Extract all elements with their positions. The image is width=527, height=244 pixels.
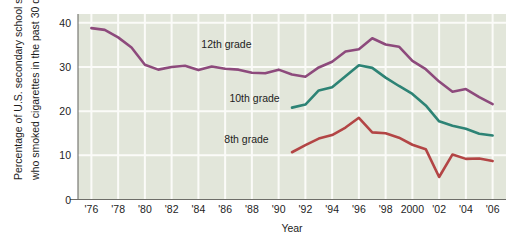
chart-page: 010203040 '76'78'80'82'84'86'88'90'92'94… [0,0,527,244]
y-axis-title-line2: who smoked cigarettes in the past 30 day… [29,0,41,181]
x-tick-label-1996: '96 [352,203,366,215]
x-tick-label-2006: '06 [486,203,500,215]
x-tick-label-1990: '90 [272,203,286,215]
x-tick-label-1978: '78 [111,203,125,215]
x-tick-label-1980: '80 [138,203,152,215]
x-tick-label-1982: '82 [165,203,179,215]
line-chart: 010203040 '76'78'80'82'84'86'88'90'92'94… [0,0,527,244]
x-tick-label-1986: '86 [218,203,232,215]
x-tick-label-1976: '76 [85,203,99,215]
x-tick-label-2000: 2000 [401,203,425,215]
series-label-12th-grade: 12th grade [201,38,251,50]
x-tick-label-1988: '88 [245,203,259,215]
x-axis-title: Year [281,222,303,234]
y-tick-label-20: 20 [59,105,71,117]
x-tick-label-2004: '04 [459,203,473,215]
series-label-10th-grade: 10th grade [229,92,279,104]
x-tick-label-1992: '92 [299,203,313,215]
x-tick-label-1984: '84 [192,203,206,215]
y-tick-label-0: 0 [65,194,71,206]
x-tick-label-1998: '98 [379,203,393,215]
y-tick-label-30: 30 [59,61,71,73]
y-tick-label-10: 10 [59,149,71,161]
x-tick-label-2002: '02 [432,203,446,215]
series-label-8th-grade: 8th grade [224,133,269,145]
y-axis-title-line1: Percentage of U.S. secondary school stud… [12,0,24,180]
x-tick-label-1994: '94 [325,203,339,215]
y-tick-label-40: 40 [59,17,71,29]
